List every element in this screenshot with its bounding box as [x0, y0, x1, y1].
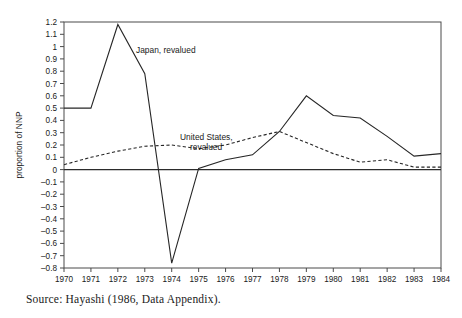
y-tick-label: 1 [52, 43, 57, 52]
y-tick-label: 0 [52, 166, 57, 175]
x-tick-label: 1982 [378, 275, 397, 284]
x-tick-label: 1975 [190, 275, 209, 284]
y-tick-label: 0.2 [46, 141, 58, 150]
x-tick-label: 1974 [163, 275, 182, 284]
plot-frame [64, 22, 441, 268]
x-tick-label: 1983 [405, 275, 424, 284]
x-tick-label: 1976 [216, 275, 235, 284]
y-tick-label: –0.1 [41, 178, 57, 187]
x-tick-label: 1978 [270, 275, 289, 284]
x-tick-label: 1977 [243, 275, 262, 284]
y-tick-label: 1.1 [46, 30, 58, 39]
chart-plot-area: 1.21.110.90.80.70.60.50.40.30.20.10–0.1–… [0, 0, 462, 290]
y-tick-label: 0.4 [46, 116, 58, 125]
y-tick-label: 0.6 [46, 92, 58, 101]
series-line-united-states [64, 131, 441, 167]
series-line-japan [64, 24, 441, 263]
series-label-group: Japan, revaluedUnited States,revalued [136, 45, 233, 152]
y-tick-label: 0.8 [46, 67, 58, 76]
y-tick-label: –0.8 [41, 264, 57, 273]
x-tick-label: 1984 [432, 275, 451, 284]
y-tick-label: –0.7 [41, 252, 57, 261]
figure-container: 1.21.110.90.80.70.60.50.40.30.20.10–0.1–… [0, 0, 462, 318]
y-tick-label: –0.6 [41, 239, 57, 248]
series-label-japan: Japan, revalued [136, 45, 196, 55]
series-label-united-states-line2: revalued [190, 142, 222, 152]
x-tick-label: 1981 [351, 275, 370, 284]
y-tick-label: 0.7 [46, 80, 58, 89]
y-tick-label: –0.5 [41, 227, 57, 236]
y-tick-label: 0.5 [46, 104, 58, 113]
x-tick-label: 1979 [297, 275, 316, 284]
y-tick-label: –0.2 [41, 190, 57, 199]
axis-group: 1.21.110.90.80.70.60.50.40.30.20.10–0.1–… [14, 18, 451, 284]
x-tick-label: 1970 [55, 275, 74, 284]
y-tick-label: –0.4 [41, 215, 57, 224]
y-tick-label: –0.3 [41, 203, 57, 212]
line-chart-svg: 1.21.110.90.80.70.60.50.40.30.20.10–0.1–… [0, 0, 462, 290]
y-tick-label: 0.3 [46, 129, 58, 138]
x-tick-label: 1973 [136, 275, 155, 284]
x-tick-label: 1971 [82, 275, 101, 284]
series-label-united-states-line1: United States, [180, 132, 233, 142]
y-tick-label: 0.1 [46, 153, 58, 162]
y-tick-label: 0.9 [46, 55, 58, 64]
source-caption: Source: Hayashi (1986, Data Appendix). [26, 293, 446, 305]
x-tick-label: 1980 [324, 275, 343, 284]
y-tick-label: 1.2 [46, 18, 58, 27]
series-group [64, 24, 441, 263]
y-axis-title: proportion of NNP [14, 111, 24, 178]
x-tick-label: 1972 [109, 275, 128, 284]
